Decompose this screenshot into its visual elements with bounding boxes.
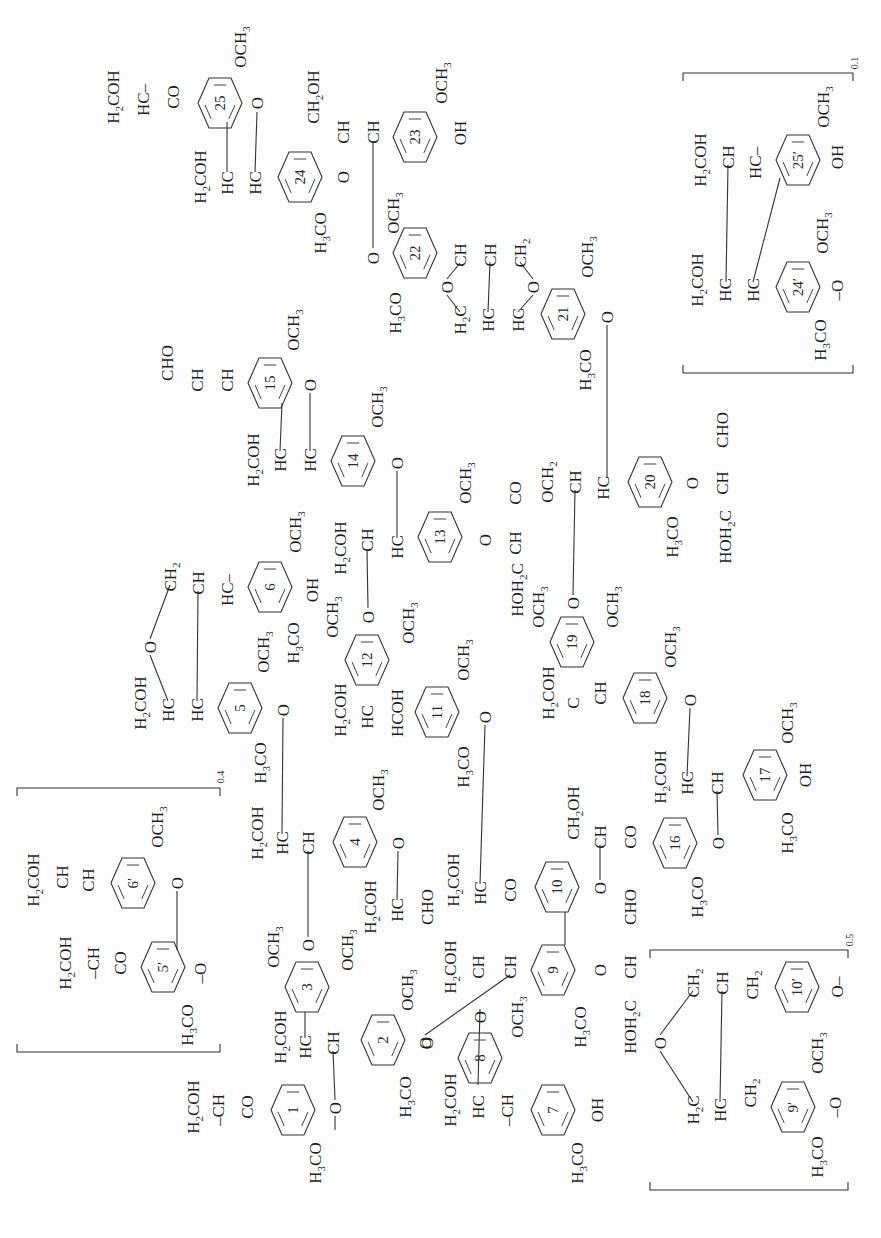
double-bond-line bbox=[659, 484, 665, 498]
chemical-group-label: OCH3​ bbox=[808, 1032, 829, 1074]
chemical-group-label: H3​CO bbox=[576, 349, 597, 390]
ring-number-label: 12 bbox=[359, 653, 375, 668]
double-bond-line bbox=[778, 1109, 784, 1123]
double-bond-line bbox=[368, 1042, 374, 1056]
chemical-group-label: O bbox=[471, 1011, 490, 1023]
chemical-group-label: OH bbox=[828, 145, 847, 170]
aromatic-ring-16: 16 bbox=[653, 818, 697, 868]
double-bond-line bbox=[635, 484, 641, 498]
chemical-group-label: O bbox=[364, 252, 383, 264]
chemical-group-label: OCH3​ bbox=[456, 462, 477, 504]
bond-line bbox=[573, 490, 575, 595]
chemical-group-label: O bbox=[359, 611, 378, 623]
chemical-group-label: H3​CO bbox=[251, 742, 272, 783]
chemical-group-label: O bbox=[476, 534, 495, 546]
chemical-group-label: H3​CO bbox=[688, 876, 709, 917]
ring-number-label: 23 bbox=[407, 130, 423, 145]
ring-number-label: 2 bbox=[375, 1036, 391, 1044]
chemical-group-label: OCH3​ bbox=[231, 26, 252, 68]
double-bond-line bbox=[654, 700, 660, 714]
chemical-group-label: H3​CO bbox=[306, 1142, 327, 1183]
bracket-layer: 0.40.50.1 bbox=[17, 57, 860, 1190]
chemical-group-label: O bbox=[651, 1037, 670, 1049]
aromatic-ring-1: 1 bbox=[271, 1085, 315, 1135]
double-bond-line bbox=[422, 714, 428, 728]
chemical-group-label: OH bbox=[588, 1098, 607, 1123]
chemical-group-label: HC bbox=[716, 278, 735, 302]
chemical-group-label: CH2​ bbox=[511, 238, 532, 267]
chemical-group-label: O bbox=[141, 641, 160, 653]
chemical-group-label: HC– bbox=[134, 83, 153, 116]
chemical-group-label: CH bbox=[299, 831, 318, 855]
ring-number-label: 24 bbox=[292, 169, 308, 185]
chemical-group-label: HC bbox=[188, 698, 207, 722]
chemical-group-label: HCOH bbox=[388, 689, 407, 737]
bond-line bbox=[397, 851, 398, 900]
chemical-group-label: HC bbox=[301, 448, 320, 472]
chemical-group-label: HC bbox=[594, 476, 613, 500]
chemical-group-label: O bbox=[709, 837, 728, 849]
double-bond-line bbox=[400, 255, 406, 269]
aromatic-ring-6-prime: 6′ bbox=[111, 858, 155, 908]
chemical-group-label: H2​C bbox=[684, 1095, 705, 1124]
chemical-group-label: CH2​ bbox=[741, 1078, 762, 1107]
double-bond-line bbox=[489, 1060, 495, 1074]
chemical-group-label: H3​CO bbox=[178, 1004, 199, 1045]
double-bond-line bbox=[806, 989, 812, 1003]
bracket-fraction: 0.4 bbox=[215, 771, 226, 784]
aromatic-ring-24: 24 bbox=[278, 152, 322, 202]
chemical-group-label: OCH3​ bbox=[286, 511, 307, 553]
ring-number-label: 15 bbox=[262, 376, 278, 391]
chemical-group-label: H3​CO bbox=[454, 746, 475, 787]
chemical-group-label: CH bbox=[358, 528, 377, 552]
double-bond-line bbox=[660, 845, 666, 859]
chemical-group-label: HOH2​C bbox=[508, 563, 529, 617]
chemical-group-label: CH bbox=[713, 471, 732, 495]
chemical-group-label: HC– bbox=[746, 146, 765, 179]
chemical-group-label: H2​COH bbox=[441, 1073, 462, 1127]
bond-line bbox=[720, 991, 722, 1102]
chemical-group-label: CHO bbox=[418, 889, 437, 925]
aromatic-ring-25: 25 bbox=[198, 78, 242, 128]
ring-number-label: 17 bbox=[757, 767, 773, 783]
ring-number-label: 8 bbox=[472, 1054, 488, 1062]
aromatic-ring-21: 21 bbox=[541, 289, 585, 339]
chemical-group-label: O bbox=[248, 97, 267, 109]
chemical-group-label: H2​COH bbox=[104, 70, 125, 124]
chemical-group-label: OCH3​ bbox=[148, 806, 169, 848]
double-bond-line bbox=[338, 463, 344, 477]
chemical-group-label: H2​COH bbox=[331, 521, 352, 575]
bracket-fraction: 0.5 bbox=[844, 934, 855, 947]
double-bond-line bbox=[278, 1112, 284, 1126]
bracket-unit-0.1-close bbox=[683, 365, 853, 373]
bond-line bbox=[687, 708, 690, 776]
bond-line bbox=[488, 262, 490, 312]
chemical-group-label: CH bbox=[364, 120, 383, 144]
double-bond-line bbox=[285, 179, 291, 193]
chemical-group-label: OH bbox=[451, 121, 470, 146]
aromatic-ring-23: 23 bbox=[393, 112, 437, 162]
chemical-group-label: O bbox=[334, 171, 353, 183]
double-bond-line bbox=[562, 1112, 568, 1126]
double-bond-line bbox=[566, 889, 572, 903]
ring-number-label: 9 bbox=[545, 966, 561, 974]
chemical-group-label: HC bbox=[246, 171, 265, 195]
bracket-unit-0.5-open bbox=[650, 950, 848, 958]
chemical-group-label: OCH3​ bbox=[264, 926, 285, 968]
double-bond-line bbox=[783, 289, 789, 303]
chemical-group-label: HC bbox=[509, 308, 528, 332]
double-bond-line bbox=[782, 989, 788, 1003]
aromatic-ring-25-prime: 25′ bbox=[776, 135, 820, 185]
aromatic-ring-3: 3 bbox=[285, 962, 329, 1012]
bracket-unit-0.5-close bbox=[650, 1182, 848, 1190]
chemical-group-label: HC– bbox=[218, 573, 237, 606]
double-bond-line bbox=[172, 969, 178, 983]
chemical-group-label: CH bbox=[591, 825, 610, 849]
chemical-group-label: CH bbox=[324, 1031, 343, 1055]
chemical-group-label: HC bbox=[469, 1095, 488, 1119]
chemical-group-label: HC bbox=[296, 1035, 315, 1059]
chemical-group-label: H2​COH bbox=[651, 750, 672, 804]
aromatic-ring-10: 10 bbox=[535, 862, 579, 912]
double-bond-line bbox=[465, 1060, 471, 1074]
chemical-group-label: CH2​OH bbox=[304, 70, 325, 124]
